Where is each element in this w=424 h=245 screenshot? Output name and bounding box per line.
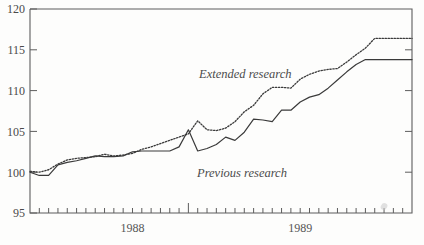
chart-container: 120 115 110 105 100 95 1988 1989 Extende… (0, 0, 424, 245)
annotation-extended-research: Extended research (198, 67, 291, 81)
line-chart: 120 115 110 105 100 95 1988 1989 Extende… (0, 0, 424, 245)
series-annotations: Extended research Previous research (196, 67, 291, 180)
series-line-extended-research (30, 38, 412, 172)
y-tick-label-120: 120 (7, 2, 25, 16)
y-axis-ticks (30, 9, 412, 213)
axis-frame (30, 9, 412, 213)
data-series-layer (30, 38, 412, 175)
y-tick-label-95: 95 (13, 206, 25, 220)
y-tick-label-100: 100 (7, 166, 25, 180)
x-axis-ticks (39, 203, 402, 213)
x-tick-label-1989: 1989 (288, 221, 312, 235)
chart-axes (30, 9, 412, 213)
y-axis-labels: 120 115 110 105 100 95 (7, 2, 25, 220)
y-tick-label-110: 110 (7, 84, 25, 98)
x-tick-label-1988: 1988 (120, 221, 144, 235)
y-tick-label-115: 115 (7, 43, 25, 57)
y-tick-label-105: 105 (7, 125, 25, 139)
x-axis-labels: 1988 1989 (120, 221, 312, 235)
annotation-previous-research: Previous research (196, 166, 287, 180)
